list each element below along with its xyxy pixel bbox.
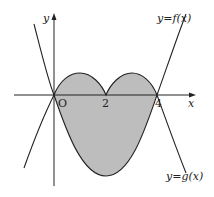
tick-label-2: 2 <box>102 97 109 110</box>
function-graph-figure: y x O 2 4 y=f(x) y=g(x) <box>0 0 214 197</box>
origin-label: O <box>58 97 67 110</box>
graph-canvas: y x O 2 4 y=f(x) y=g(x) <box>0 0 214 197</box>
curve-f <box>34 14 186 95</box>
y-axis-arrow-icon <box>52 13 57 20</box>
curve-g-label: y=g(x) <box>165 170 203 183</box>
shaded-region <box>54 73 157 176</box>
tick-label-4: 4 <box>155 97 162 110</box>
y-axis-label: y <box>42 12 50 25</box>
curve-f-label: y=f(x) <box>156 12 191 25</box>
x-axis-label: x <box>188 97 195 110</box>
